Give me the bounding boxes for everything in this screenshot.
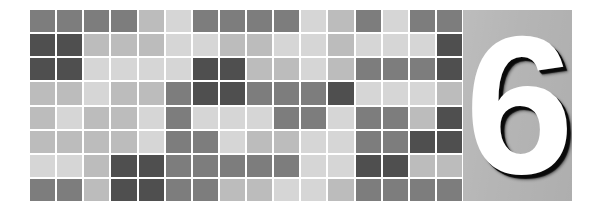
mosaic-cell (220, 131, 245, 153)
mosaic-cell (84, 10, 109, 32)
mosaic-cell (437, 107, 462, 129)
mosaic-cell (111, 10, 136, 32)
mosaic-cell (274, 10, 299, 32)
mosaic-cell (139, 179, 164, 201)
mosaic-cell (437, 131, 462, 153)
mosaic-cell (57, 58, 82, 80)
mosaic-cell (193, 34, 218, 56)
chapter-opener-page: 6 (0, 0, 602, 213)
mosaic-cell (111, 179, 136, 201)
mosaic-cell (111, 82, 136, 104)
mosaic-cell (301, 179, 326, 201)
mosaic-cell (220, 155, 245, 177)
mosaic-cell (57, 10, 82, 32)
mosaic-cell (356, 131, 381, 153)
mosaic-cell (220, 34, 245, 56)
mosaic-cell (437, 34, 462, 56)
mosaic-cell (193, 82, 218, 104)
mosaic-cell (247, 179, 272, 201)
mosaic-cell (328, 179, 353, 201)
mosaic-cell (139, 34, 164, 56)
mosaic-cell (166, 155, 191, 177)
mosaic-cell (166, 131, 191, 153)
mosaic-cell (30, 155, 55, 177)
mosaic-cell (139, 82, 164, 104)
mosaic-cell (220, 58, 245, 80)
mosaic-cell (57, 155, 82, 177)
mosaic-cell (220, 82, 245, 104)
mosaic-cell (301, 58, 326, 80)
mosaic-cell (193, 131, 218, 153)
mosaic-cell (30, 58, 55, 80)
mosaic-cell (328, 10, 353, 32)
mosaic-cell (410, 155, 435, 177)
mosaic-cell (247, 34, 272, 56)
mosaic-cell (410, 34, 435, 56)
mosaic-cell (328, 107, 353, 129)
chapter-number-panel: 6 (463, 10, 572, 201)
mosaic-cell (247, 107, 272, 129)
mosaic-cell (84, 58, 109, 80)
mosaic-cell (410, 58, 435, 80)
mosaic-cell (57, 107, 82, 129)
mosaic-cell (274, 131, 299, 153)
mosaic-cell (166, 58, 191, 80)
mosaic-cell (193, 179, 218, 201)
mosaic-cell (111, 58, 136, 80)
chapter-number-text: 6 (463, 27, 572, 184)
mosaic-cell (410, 10, 435, 32)
mosaic-cell (437, 10, 462, 32)
mosaic-cell (356, 155, 381, 177)
mosaic-cell (30, 179, 55, 201)
mosaic-cell (247, 82, 272, 104)
mosaic-cell (166, 107, 191, 129)
mosaic-cell (301, 34, 326, 56)
mosaic-cell (139, 58, 164, 80)
mosaic-cell (166, 34, 191, 56)
mosaic-cell (193, 58, 218, 80)
mosaic-cell (301, 10, 326, 32)
mosaic-cell (274, 155, 299, 177)
mosaic-cell (111, 131, 136, 153)
mosaic-cell (356, 179, 381, 201)
mosaic-cell (274, 34, 299, 56)
mosaic-cell (84, 107, 109, 129)
mosaic-cell (247, 155, 272, 177)
mosaic-cell (328, 155, 353, 177)
mosaic-cell (247, 131, 272, 153)
mosaic-cell (30, 10, 55, 32)
mosaic-cell (111, 107, 136, 129)
mosaic-cell (301, 82, 326, 104)
mosaic-cell (437, 58, 462, 80)
mosaic-cell (111, 155, 136, 177)
mosaic-cell (383, 131, 408, 153)
mosaic-cell (383, 82, 408, 104)
mosaic-cell (84, 155, 109, 177)
mosaic-cell (166, 10, 191, 32)
mosaic-cell (410, 107, 435, 129)
mosaic-cell (57, 34, 82, 56)
mosaic-cell (356, 58, 381, 80)
mosaic-cell (193, 107, 218, 129)
mosaic-cell (356, 34, 381, 56)
mosaic-cell (30, 34, 55, 56)
mosaic-cell (139, 131, 164, 153)
mosaic-cell (356, 107, 381, 129)
mosaic-cell (410, 82, 435, 104)
mosaic-cell (220, 107, 245, 129)
mosaic-cell (383, 58, 408, 80)
mosaic-cell (301, 155, 326, 177)
mosaic-cell (139, 107, 164, 129)
mosaic-cell (274, 107, 299, 129)
mosaic-cell (57, 131, 82, 153)
mosaic-cell (139, 155, 164, 177)
mosaic-cell (437, 82, 462, 104)
mosaic-cell (328, 82, 353, 104)
mosaic-cell (139, 10, 164, 32)
mosaic-cell (356, 10, 381, 32)
mosaic-cell (220, 179, 245, 201)
mosaic-cell (84, 34, 109, 56)
mosaic-cell (193, 155, 218, 177)
mosaic-cell (383, 10, 408, 32)
mosaic-cell (57, 82, 82, 104)
